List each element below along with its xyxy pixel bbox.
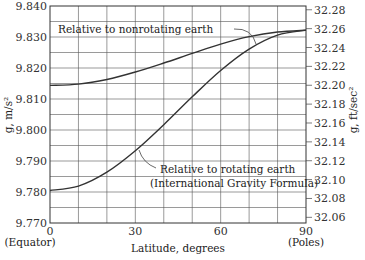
x-axis-label: Latitude, degrees — [131, 242, 225, 254]
annotation-rotating-line2: (International Gravity Formula) — [150, 177, 318, 189]
y-tick-label: 9.790 — [16, 155, 48, 168]
annotation-leader-nonrotating — [234, 29, 256, 44]
y-tick-label: 9.830 — [16, 31, 48, 44]
y-tick-label: 9.770 — [16, 217, 48, 230]
y-tick-label: 9.810 — [16, 93, 48, 106]
y-axis-left-ticks: 9.7709.7809.7909.8009.8109.8209.8309.840 — [16, 0, 48, 230]
annotation-rotating-line1: Relative to rotating earth — [160, 163, 296, 175]
y-right-tick-label: 32.14 — [314, 136, 346, 149]
y-axis-left-label: g, m/s² — [2, 97, 14, 134]
poles-label: (Poles) — [288, 236, 324, 248]
y-right-tick-label: 32.26 — [314, 23, 346, 36]
y-right-tick-label: 32.18 — [314, 98, 346, 111]
y-right-tick-label: 32.28 — [314, 4, 346, 17]
y-tick-label: 9.800 — [16, 124, 48, 137]
y-right-tick-label: 32.12 — [314, 155, 346, 168]
annotation-nonrotating: Relative to nonrotating earth — [58, 23, 213, 35]
y-right-tick-label: 32.10 — [314, 174, 346, 187]
y-tick-label: 9.780 — [16, 186, 48, 199]
y-tick-label: 9.840 — [16, 0, 48, 13]
y-axis-right-ticks: 32.0632.0832.1032.1232.1432.1632.1832.20… — [306, 4, 346, 225]
annotation-leader-rotating — [139, 150, 156, 168]
y-right-tick-label: 32.24 — [314, 42, 346, 55]
x-axis-ticks: 0306090 — [47, 225, 314, 238]
gravity-latitude-chart: 9.7709.7809.7909.8009.8109.8209.8309.840… — [0, 0, 365, 260]
y-axis-right-label: g, ft/sec² — [347, 87, 359, 134]
y-right-tick-label: 32.06 — [314, 211, 346, 224]
equator-label: (Equator) — [4, 236, 55, 248]
y-right-tick-label: 32.08 — [314, 192, 346, 205]
y-right-tick-label: 32.20 — [314, 79, 346, 92]
y-right-tick-label: 32.16 — [314, 117, 346, 130]
y-tick-label: 9.820 — [16, 62, 48, 75]
x-tick-label: 30 — [128, 225, 142, 238]
x-tick-label: 60 — [214, 225, 228, 238]
y-right-tick-label: 32.22 — [314, 60, 346, 73]
